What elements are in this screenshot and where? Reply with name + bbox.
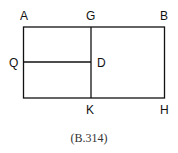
figure-caption: (B.314) — [71, 131, 108, 145]
label-K: K — [86, 103, 94, 117]
geometry-diagram: A G B Q D K H (B.314) — [0, 0, 178, 153]
label-B: B — [160, 9, 168, 23]
label-G: G — [86, 9, 95, 23]
label-H: H — [160, 103, 169, 117]
label-A: A — [20, 9, 28, 23]
label-Q: Q — [9, 56, 18, 70]
label-D: D — [97, 56, 106, 70]
